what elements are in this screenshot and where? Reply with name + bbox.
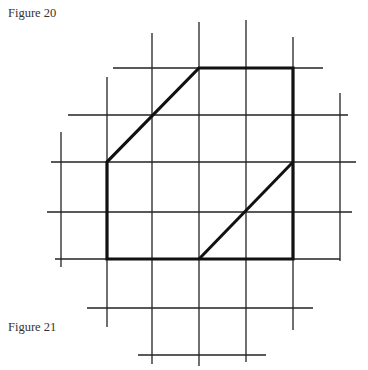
thick-outline-shape (107, 68, 293, 259)
grid-lines (47, 20, 356, 366)
grid-diagram (0, 0, 368, 370)
